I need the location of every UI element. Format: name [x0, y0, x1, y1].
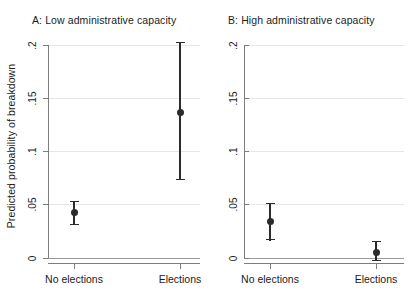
y-axis-line-panel-b: [244, 45, 245, 258]
x-axis-line-panel-a: [48, 263, 200, 264]
gridline-0.2: [249, 45, 404, 46]
ci-cap-upper: [70, 201, 79, 202]
y-tick-label-0.05: .05: [228, 195, 239, 215]
gridline-0.15: [48, 98, 200, 99]
gridline-0.1: [249, 151, 404, 152]
panel-b-title: B: High administrative capacity: [228, 14, 375, 26]
y-tick-label-0.2: .2: [228, 36, 239, 56]
gridline-0.15: [249, 98, 404, 99]
x-axis-line-panel-b: [244, 263, 404, 264]
ci-cap-lower: [266, 239, 275, 240]
y-tick-label-0.1: .1: [228, 142, 239, 162]
ci-cap-lower: [70, 224, 79, 225]
ci-cap-upper: [176, 42, 185, 43]
ci-cap-lower: [176, 179, 185, 180]
y-axis-line-panel-a: [48, 45, 49, 258]
gridline-zero: [48, 258, 200, 259]
gridline-zero: [249, 258, 404, 259]
x-tick-mark-no-elections: [270, 264, 271, 269]
ci-cap-upper: [266, 203, 275, 204]
data-point-marker: [373, 249, 380, 256]
ci-cap-lower: [372, 260, 381, 261]
x-tick-mark-no-elections: [74, 264, 75, 269]
x-tick-label-no-elections: No elections: [220, 273, 320, 285]
plot-area-panel-b: [249, 45, 404, 258]
gridline-0.05: [48, 204, 200, 205]
data-point-marker: [177, 109, 184, 116]
gridline-0.1: [48, 151, 200, 152]
x-tick-label-no-elections: No elections: [24, 273, 124, 285]
data-point-marker: [71, 209, 78, 216]
x-tick-label-elections: Elections: [336, 273, 412, 285]
y-tick-label-0: 0: [228, 249, 239, 269]
panel-low-administrative-capacity: A: Low administrative capacity .2 .15 .1…: [0, 0, 206, 298]
panel-high-administrative-capacity: B: High administrative capacity .2 .15 .…: [206, 0, 412, 298]
plot-area-panel-a: [48, 45, 200, 258]
y-tick-label-0: 0: [27, 249, 38, 269]
ci-cap-upper: [372, 241, 381, 242]
panel-a-title: A: Low administrative capacity: [32, 14, 176, 26]
figure-canvas: Predicted probability of breakdown A: Lo…: [0, 0, 412, 298]
y-tick-label-0.2: .2: [27, 36, 38, 56]
y-tick-label-0.15: .15: [228, 89, 239, 109]
y-tick-label-0.15: .15: [27, 89, 38, 109]
x-tick-mark-elections: [180, 264, 181, 269]
data-point-marker: [267, 218, 274, 225]
y-tick-label-0.1: .1: [27, 142, 38, 162]
x-tick-mark-elections: [376, 264, 377, 269]
gridline-0.2: [48, 45, 200, 46]
y-tick-label-0.05: .05: [27, 195, 38, 215]
